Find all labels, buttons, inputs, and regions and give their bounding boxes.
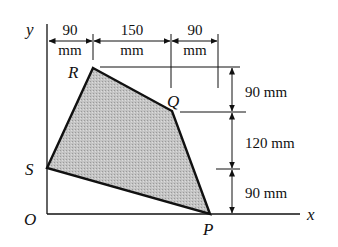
- dim-h1-unit: mm: [58, 42, 82, 58]
- point-label-q: Q: [167, 92, 179, 111]
- y-axis-label: y: [24, 20, 34, 39]
- dim-v2-text: 120 mm: [245, 135, 295, 151]
- dim-v1-text: 90 mm: [245, 84, 287, 100]
- point-label-r: R: [67, 63, 79, 82]
- origin-label: O: [24, 210, 36, 229]
- dim-v3-text: 90 mm: [245, 185, 287, 201]
- dim-h3-unit: mm: [183, 42, 207, 58]
- x-axis-label: x: [306, 205, 315, 224]
- dim-h2-unit: mm: [120, 42, 144, 58]
- point-label-p: P: [202, 220, 213, 239]
- point-label-s: S: [25, 160, 34, 179]
- dim-h2-value: 150: [121, 22, 144, 38]
- dim-h1-value: 90: [63, 22, 78, 38]
- dim-h3-value: 90: [188, 22, 203, 38]
- quadrilateral-pqrs: [47, 68, 210, 214]
